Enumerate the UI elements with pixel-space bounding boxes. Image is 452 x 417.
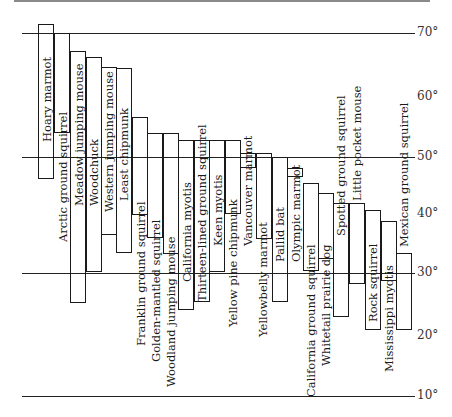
bar-label: Hoary marmot bbox=[40, 57, 54, 142]
bar-label: Mexican ground squirrel bbox=[397, 102, 411, 247]
bar-label: Vancouver marmot bbox=[241, 136, 255, 246]
bar-label: Rock squirrel bbox=[366, 244, 380, 322]
bar-label: Yellowbelly marmot bbox=[256, 222, 270, 337]
range-bar bbox=[349, 203, 365, 284]
gridline bbox=[22, 33, 415, 34]
y-tick-label: 10° bbox=[417, 388, 438, 402]
bar-label: Pallid bat bbox=[273, 207, 287, 262]
bar-label: Mississippi myotis bbox=[382, 265, 396, 372]
bar-label: Spotted ground squirrel bbox=[334, 95, 348, 236]
latitude-range-chart: 70°60°50°40°30°20°10°Hoary marmotArctic … bbox=[0, 0, 452, 417]
y-tick-label: 30° bbox=[417, 265, 438, 279]
bar-label: Woodland jumping mouse bbox=[164, 237, 178, 388]
bar-label: Thirteen-lined ground squirrel bbox=[195, 124, 209, 302]
range-bar bbox=[396, 253, 412, 330]
bar-label: Olympic marmot bbox=[289, 165, 303, 262]
y-tick-label: 50° bbox=[417, 149, 438, 163]
bar-label: California myotis bbox=[180, 182, 194, 282]
y-tick-label: 70° bbox=[417, 25, 438, 39]
gridline bbox=[22, 396, 415, 397]
bar-label: Little pocket mouse bbox=[350, 86, 364, 201]
y-tick-label: 20° bbox=[417, 328, 438, 342]
bar-label: Woodchuck bbox=[87, 139, 101, 206]
bar-label: Meadow jumping mouse bbox=[72, 63, 86, 206]
bar-label: Western jumping mouse bbox=[102, 71, 116, 212]
bar-label: Golden-mantled squirrel bbox=[149, 220, 163, 362]
bar-label: Arctic ground squirrel bbox=[56, 112, 70, 242]
y-tick-label: 60° bbox=[417, 89, 438, 103]
bar-label: Keen myotis bbox=[211, 175, 225, 246]
bar-label: Least chipmunk bbox=[117, 108, 131, 201]
bar-label: California ground squirrel bbox=[304, 244, 318, 397]
y-tick-label: 40° bbox=[417, 206, 438, 220]
bar-label: Whitetail prairie dog bbox=[319, 245, 333, 367]
bar-label: Yellow pine chipmunk bbox=[226, 199, 240, 327]
bar-label: Franklin ground squirrel bbox=[134, 201, 148, 346]
